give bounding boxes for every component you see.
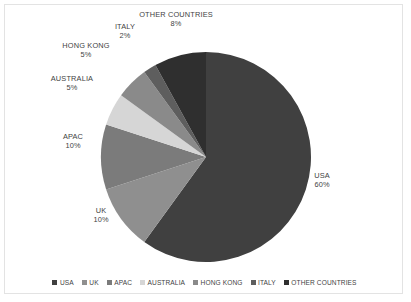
chart-legend: USAUKAPACAUSTRALIAHONG KONGITALYOTHER CO…: [5, 271, 404, 293]
legend-item-label: OTHER COUNTRIES: [291, 279, 356, 286]
legend-swatch-icon: [52, 280, 57, 285]
data-label-italy: ITALY 2%: [95, 22, 155, 41]
legend-item-usa[interactable]: USA: [52, 279, 73, 286]
data-label-australia-name: AUSTRALIA: [51, 74, 93, 83]
legend-item-label: USA: [60, 279, 74, 286]
legend-swatch-icon: [251, 280, 256, 285]
legend-item-hong-kong[interactable]: HONG KONG: [193, 279, 242, 286]
pie-slices: [101, 52, 311, 262]
legend-item-label: HONG KONG: [201, 279, 243, 286]
legend-item-uk[interactable]: UK: [82, 279, 99, 286]
pie-plot-area: OTHER COUNTRIES 8% ITALY 2% HONG KONG 5%…: [5, 5, 404, 271]
legend-item-italy[interactable]: ITALY: [251, 279, 276, 286]
data-label-australia: AUSTRALIA 5%: [34, 74, 110, 93]
legend-item-australia[interactable]: AUSTRALIA: [140, 279, 185, 286]
data-label-italy-pct: 2%: [95, 31, 155, 40]
data-label-hong-kong: HONG KONG 5%: [48, 41, 124, 60]
legend-item-label: APAC: [114, 279, 132, 286]
data-label-apac: APAC 10%: [49, 132, 97, 151]
data-label-uk: UK 10%: [81, 206, 121, 225]
data-label-usa: USA 60%: [302, 171, 342, 190]
data-label-usa-pct: 60%: [302, 180, 342, 189]
data-label-australia-pct: 5%: [34, 83, 110, 92]
legend-item-label: AUSTRALIA: [148, 279, 186, 286]
legend-swatch-icon: [140, 280, 145, 285]
data-label-usa-name: USA: [314, 171, 330, 180]
legend-swatch-icon: [82, 280, 87, 285]
legend-item-apac[interactable]: APAC: [107, 279, 132, 286]
legend-swatch-icon: [193, 280, 198, 285]
chart-frame: OTHER COUNTRIES 8% ITALY 2% HONG KONG 5%…: [4, 4, 403, 294]
legend-item-label: ITALY: [258, 279, 276, 286]
data-label-uk-pct: 10%: [81, 215, 121, 224]
legend-swatch-icon: [107, 280, 112, 285]
data-label-hong-kong-name: HONG KONG: [62, 41, 109, 50]
legend-item-other-countries[interactable]: OTHER COUNTRIES: [284, 279, 357, 286]
data-label-uk-name: UK: [96, 206, 107, 215]
data-label-apac-pct: 10%: [49, 141, 97, 150]
data-label-apac-name: APAC: [63, 132, 83, 141]
legend-item-label: UK: [89, 279, 98, 286]
data-label-other-countries-name: OTHER COUNTRIES: [139, 10, 213, 19]
data-label-italy-name: ITALY: [115, 22, 135, 31]
data-label-hong-kong-pct: 5%: [48, 50, 124, 59]
legend-swatch-icon: [284, 280, 289, 285]
